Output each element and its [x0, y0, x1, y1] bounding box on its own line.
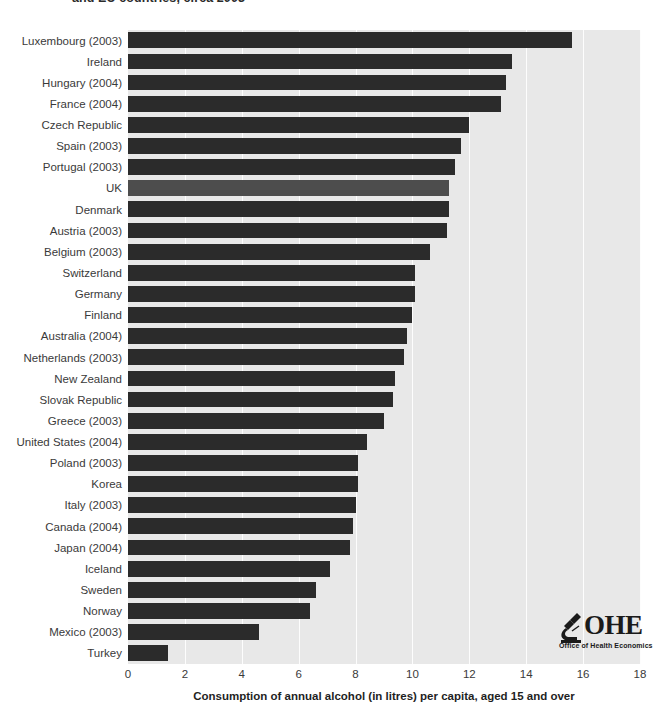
- bar-row: Australia (2004): [0, 326, 667, 347]
- bar-category-label: New Zealand: [54, 373, 122, 385]
- bar: [128, 645, 168, 661]
- bar-category-label: Finland: [84, 309, 122, 321]
- bar-row: Greece (2003): [0, 410, 667, 431]
- bar-row: Sweden: [0, 579, 667, 600]
- bar-row: Poland (2003): [0, 453, 667, 474]
- bar-row: Slovak Republic: [0, 389, 667, 410]
- bar-category-label: Spain (2003): [56, 140, 122, 152]
- bar-row: Hungary (2004): [0, 72, 667, 93]
- x-axis-title: Consumption of annual alcohol (in litres…: [128, 690, 640, 702]
- bar-row: Japan (2004): [0, 537, 667, 558]
- ohe-logo: OHE Office of Health Economics: [557, 608, 661, 656]
- bar-row: Portugal (2003): [0, 157, 667, 178]
- bar-category-label: Slovak Republic: [40, 394, 122, 406]
- bar: [128, 561, 330, 577]
- bar-row: Spain (2003): [0, 136, 667, 157]
- x-tick-label: 6: [295, 668, 301, 680]
- bar: [128, 244, 430, 260]
- bar: [128, 392, 393, 408]
- bar-category-label: Netherlands (2003): [24, 352, 122, 364]
- bar-category-label: Italy (2003): [64, 499, 122, 511]
- bar: [128, 307, 412, 323]
- bar: [128, 476, 358, 492]
- bar: [128, 159, 455, 175]
- bar-category-label: UK: [106, 182, 122, 194]
- bar-category-label: Sweden: [80, 584, 122, 596]
- x-tick-label: 4: [239, 668, 245, 680]
- bar-category-label: Korea: [91, 478, 122, 490]
- bar-category-label: Belgium (2003): [44, 246, 122, 258]
- chart-title-clipped: and EU countries, circa 2003: [0, 0, 667, 11]
- bar-row: UK: [0, 178, 667, 199]
- bar-row: Ireland: [0, 51, 667, 72]
- bar: [128, 328, 407, 344]
- bar-category-label: Poland (2003): [50, 457, 122, 469]
- bar-category-label: United States (2004): [17, 436, 122, 448]
- bar-category-label: France (2004): [50, 98, 122, 110]
- bar: [128, 603, 310, 619]
- bar: [128, 540, 350, 556]
- bar: [128, 582, 316, 598]
- bar-row: Switzerland: [0, 262, 667, 283]
- bar: [128, 286, 415, 302]
- bar-category-label: Iceland: [85, 563, 122, 575]
- bar-category-label: Austria (2003): [50, 225, 122, 237]
- bar: [128, 54, 512, 70]
- bar-category-label: Ireland: [87, 56, 122, 68]
- bar-row: Iceland: [0, 558, 667, 579]
- bar-row: Finland: [0, 305, 667, 326]
- bar: [128, 497, 356, 513]
- bar-category-label: Czech Republic: [41, 119, 122, 131]
- bar: [128, 624, 259, 640]
- bar-row: New Zealand: [0, 368, 667, 389]
- microscope-icon: [557, 610, 587, 644]
- bar: [128, 223, 447, 239]
- logo-wordmark: OHE: [584, 610, 643, 640]
- bar-category-label: Norway: [83, 605, 122, 617]
- bar-row: Austria (2003): [0, 220, 667, 241]
- logo-subtitle: Office of Health Economics: [559, 642, 653, 649]
- bar-category-label: Japan (2004): [54, 542, 122, 554]
- x-tick-label: 8: [352, 668, 358, 680]
- bar: [128, 265, 415, 281]
- bar-row: Luxembourg (2003): [0, 30, 667, 51]
- bar-category-label: Germany: [75, 288, 122, 300]
- bar: [128, 349, 404, 365]
- x-tick-label: 14: [520, 668, 533, 680]
- x-tick-label: 16: [577, 668, 590, 680]
- bar: [128, 138, 461, 154]
- bar-row: Germany: [0, 284, 667, 305]
- bar-category-label: Denmark: [75, 204, 122, 216]
- bar-category-label: Mexico (2003): [49, 626, 122, 638]
- alcohol-consumption-chart: and EU countries, circa 2003 Luxembourg …: [0, 0, 667, 721]
- bar-rows: Luxembourg (2003)IrelandHungary (2004)Fr…: [0, 30, 667, 664]
- bar-category-label: Turkey: [87, 647, 122, 659]
- bar: [128, 413, 384, 429]
- chart-title: and EU countries, circa 2003: [72, 0, 245, 5]
- bar: [128, 32, 572, 48]
- bar-category-label: Portugal (2003): [43, 161, 122, 173]
- x-tick-label: 18: [634, 668, 647, 680]
- bar-category-label: Greece (2003): [48, 415, 122, 427]
- bar-row: Belgium (2003): [0, 241, 667, 262]
- bar-row: Czech Republic: [0, 115, 667, 136]
- bar-row: Netherlands (2003): [0, 347, 667, 368]
- x-tick-label: 2: [182, 668, 188, 680]
- bar-row: Korea: [0, 474, 667, 495]
- bar: [128, 75, 506, 91]
- bar: [128, 180, 449, 196]
- bar: [128, 434, 367, 450]
- bar-row: France (2004): [0, 93, 667, 114]
- bar: [128, 117, 469, 133]
- bar: [128, 371, 395, 387]
- bar-row: United States (2004): [0, 432, 667, 453]
- bar-category-label: Hungary (2004): [42, 77, 122, 89]
- bar: [128, 201, 449, 217]
- x-tick-label: 0: [125, 668, 131, 680]
- bar-category-label: Switzerland: [63, 267, 122, 279]
- bar-row: Denmark: [0, 199, 667, 220]
- x-tick-label: 12: [463, 668, 476, 680]
- bar: [128, 96, 501, 112]
- bar-category-label: Australia (2004): [41, 330, 122, 342]
- bar-category-label: Luxembourg (2003): [22, 35, 122, 47]
